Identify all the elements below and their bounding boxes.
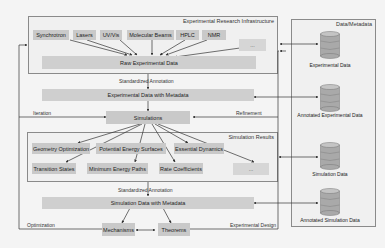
database-icon[interactable] <box>320 142 340 170</box>
infrastructure-title: Experimental Research Infrastructure <box>183 18 274 24</box>
simulations-node[interactable]: Simulations <box>106 111 190 124</box>
instrument-molecular-beams[interactable]: Molecular Beams <box>127 30 174 40</box>
instrument-nmr[interactable]: NMR <box>202 30 226 40</box>
database-label-simulation-data: Simulation Data <box>312 171 347 177</box>
instrument-synchrotron[interactable]: Synchrotron <box>33 30 69 40</box>
database-label-annotated-simulation-data: Annotated Simulation Data <box>300 217 359 223</box>
result-essential-dynamics[interactable]: Essential Dynamics <box>174 143 224 154</box>
result-transition-states[interactable]: Transition States <box>32 163 76 174</box>
result-rate-coefficients[interactable]: Rate Coefficients <box>159 163 203 174</box>
theorems-node[interactable]: Theorems <box>158 223 190 236</box>
mechanisms-node[interactable]: Mechanisms <box>102 223 135 236</box>
edge-label-experimental-design: Experimental Design <box>230 222 276 228</box>
database-icon[interactable] <box>320 84 340 112</box>
edge-label-standardized-annotation-2: Standardized Annotation <box>118 187 173 193</box>
result-potential-energy-surfaces[interactable]: Potential Energy Surfaces <box>96 143 166 154</box>
data-metadata-title: Data/Metadata <box>336 21 372 27</box>
database-icon[interactable] <box>320 188 340 216</box>
database-label-annotated-experimental-data: Annotated Experimental Data <box>297 112 362 118</box>
database-icon[interactable] <box>320 31 340 59</box>
result-minimum-energy-paths[interactable]: Minimum Energy Paths <box>87 163 148 174</box>
instrument-lasers[interactable]: Lasers <box>73 30 96 40</box>
instrument-uv-vis[interactable]: UV/Vis <box>100 30 122 40</box>
edge-label-optimization: Optimization <box>27 222 55 228</box>
instrument-more[interactable]: ... <box>239 39 266 51</box>
instrument-hplc[interactable]: HPLC <box>176 30 199 40</box>
result-more[interactable]: ... <box>233 163 269 175</box>
simulation-data-metadata-node[interactable]: Simulation Data with Metadata <box>42 197 254 209</box>
experimental-data-metadata-node[interactable]: Experimental Data with Metadata <box>42 89 254 101</box>
database-label-experimental-data: Experimental Data <box>309 62 350 68</box>
raw-experimental-data-node[interactable]: Raw Experimental Data <box>42 56 256 69</box>
edge-label-iteration: Iteration <box>33 110 51 116</box>
edge-label-standardized-annotation-1: Standardized Annotation <box>119 78 174 84</box>
simulation-results-title: Simulation Results <box>228 134 274 140</box>
edge-label-refinement: Refinement <box>236 110 262 116</box>
result-geometry-optimization[interactable]: Geometry Optimization <box>32 143 90 154</box>
